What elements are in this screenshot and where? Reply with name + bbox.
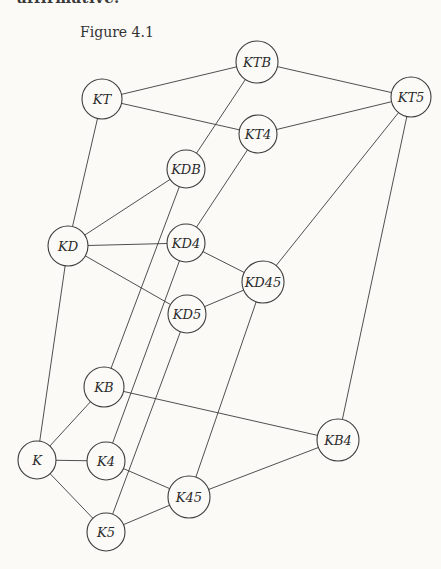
book-page: affirmative. Figure 4.1 KTKTBKT5KT4KDBKD… [0,0,441,569]
node-label-KT4: KT4 [244,127,272,142]
node-KTB: KTB [236,41,278,83]
node-KT5: KT5 [391,77,431,117]
node-label-KD45: KD45 [244,275,282,290]
node-K4: K4 [87,442,125,480]
edge-KT-KTB [102,62,257,99]
node-label-K5: K5 [96,525,115,540]
node-KB4: KB4 [317,419,359,461]
edge-KB4-KT5 [338,97,411,440]
edge-K-KD [37,246,68,460]
node-KT4: KT4 [239,115,277,153]
edge-KD-KD5 [68,246,187,314]
node-KD45: KD45 [242,261,284,303]
node-label-K4: K4 [96,454,115,469]
edge-KD-KDB [68,169,186,246]
edge-KD4-KT4 [186,134,258,243]
node-K5: K5 [87,513,125,551]
node-KB: KB [84,367,124,407]
node-label-KD4: KD4 [171,236,200,251]
node-label-KD: KD [57,239,79,254]
edge-KTB-KT5 [257,62,411,97]
node-KT: KT [82,79,122,119]
node-label-K45: K45 [175,490,202,505]
node-label-KB: KB [93,380,113,395]
edge-KB-KB4 [104,387,338,440]
node-label-KT: KT [92,92,113,107]
node-label-KB4: KB4 [323,433,352,448]
node-label-KD5: KD5 [172,307,201,322]
edge-KD45-KT5 [263,97,411,282]
node-label-KDB: KDB [170,162,201,177]
modal-logic-systems-diagram: KTKTBKT5KT4KDBKDKD4KD45KD5KBKB4KK4K45K5 [0,0,441,569]
edge-KD-KT [68,99,102,246]
edge-K45-KB4 [189,440,338,497]
node-KD4: KD4 [167,224,205,262]
node-K45: K45 [168,476,210,518]
node-label-KTB: KTB [242,55,271,70]
edge-KT-KT4 [102,99,258,134]
edge-KT4-KT5 [258,97,411,134]
node-K: K [18,441,56,479]
node-KD: KD [48,226,88,266]
node-KD5: KD5 [168,295,206,333]
node-label-K: K [31,453,43,468]
node-label-KT5: KT5 [397,90,425,105]
node-KDB: KDB [167,150,205,188]
